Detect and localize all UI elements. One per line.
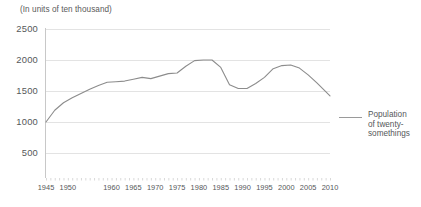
y-axis-tick-label: 500 xyxy=(0,147,38,158)
legend-label-line-3: somethings xyxy=(368,129,421,139)
legend-label-line-1: Population xyxy=(368,110,421,120)
plot-area xyxy=(0,0,421,207)
legend-line-swatch xyxy=(339,117,362,118)
legend-label-population: Population of twenty- somethings xyxy=(368,110,421,139)
y-axis-tick-label: 1500 xyxy=(0,85,38,96)
y-axis-tick-label: 1000 xyxy=(0,116,38,127)
x-axis-tick-label: 1950 xyxy=(55,183,81,192)
legend-label-line-2: of twenty- xyxy=(368,120,421,130)
y-axis-tick-label: 2500 xyxy=(0,23,38,34)
x-tick-marks xyxy=(47,178,331,181)
y-axis-tick-label: 2000 xyxy=(0,54,38,65)
gridlines xyxy=(46,30,330,154)
x-axis-tick-label: 2010 xyxy=(317,183,343,192)
chart-container: (In units of ten thousand) 2500200015001… xyxy=(0,0,421,207)
